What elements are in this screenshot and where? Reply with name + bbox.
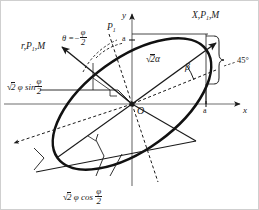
sin-term-radicand: 2 xyxy=(11,82,16,92)
figure-container: x y O a a X,P1,M r,P1,M P1 θ =−φ2 √2α β … xyxy=(0,0,259,210)
cos-term-denominator: 2 xyxy=(95,197,102,206)
geometry-diagram-svg xyxy=(0,0,259,210)
x-tick-label: a xyxy=(203,107,207,115)
y-tick-label: a xyxy=(122,35,126,43)
sin-term-label: √2 φ sinφ2 xyxy=(7,77,42,96)
p1-sub: 1 xyxy=(113,27,116,33)
angle-45-label: 45° xyxy=(237,56,249,65)
theta-denominator: 2 xyxy=(80,38,87,47)
beta-label: β xyxy=(185,62,190,72)
semi-major-label: √2α xyxy=(146,54,160,65)
rotated-axis-negative-third: M xyxy=(37,41,45,51)
cos-term-fraction: φ2 xyxy=(95,187,102,206)
theta-label: θ =−φ2 xyxy=(62,28,87,46)
rotated-axis-negative-label: r,P1,M xyxy=(21,42,45,53)
semi-major-symbol: α xyxy=(155,54,160,64)
rotated-axis-positive-label: X,P1,M xyxy=(192,11,219,22)
cos-term-label: √2 φ cos φ2 xyxy=(63,187,102,206)
sin-term-fraction: φ2 xyxy=(35,77,42,96)
theta-lhs: θ = xyxy=(62,33,74,43)
cos-term-phi: φ xyxy=(74,192,79,202)
theta-fraction: φ2 xyxy=(80,28,87,46)
cos-term-radicand: 2 xyxy=(67,192,72,202)
sin-term-phi: φ xyxy=(18,82,23,92)
sin-term-denominator: 2 xyxy=(35,87,42,96)
axis-label-y: y xyxy=(122,11,126,20)
rotated-axis-positive-third: M xyxy=(211,10,219,20)
axis-label-x: x xyxy=(243,106,247,115)
sin-term-fn: sin xyxy=(25,82,36,92)
cos-term-fn: cos xyxy=(81,192,93,202)
origin-label: O xyxy=(137,106,144,116)
dashed-axis-p1-label: P1 xyxy=(107,23,116,34)
origin-marker xyxy=(129,101,134,106)
